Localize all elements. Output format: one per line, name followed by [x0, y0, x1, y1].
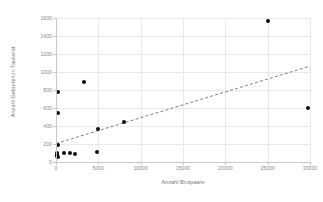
data-point [95, 150, 99, 154]
x-tick-mark [56, 162, 57, 165]
x-tick-mark [225, 162, 226, 165]
y-tick-mark [53, 108, 56, 109]
y-tick-label: 1600 [0, 15, 52, 21]
y-tick-label: 400 [0, 123, 52, 129]
x-tick-mark [183, 162, 184, 165]
y-tick-mark [53, 144, 56, 145]
gridline-vertical [310, 18, 311, 162]
x-tick-mark [268, 162, 269, 165]
y-tick-mark [53, 72, 56, 73]
y-tick-mark [53, 126, 56, 127]
data-point [266, 19, 270, 23]
x-tick-label: 10000 [126, 165, 156, 171]
x-tick-mark [141, 162, 142, 165]
x-tick-label: 15000 [168, 165, 198, 171]
scatter-chart: 02004006008001000120014001600 0500010000… [0, 0, 323, 202]
y-tick-mark [53, 36, 56, 37]
x-tick-mark [310, 162, 311, 165]
y-tick-mark [53, 18, 56, 19]
x-axis-title: Anzahl Brutpaare [56, 179, 310, 185]
y-tick-label: 600 [0, 105, 52, 111]
x-tick-label: 5000 [83, 165, 113, 171]
x-tick-label: 25000 [253, 165, 283, 171]
y-tick-label: 1400 [0, 33, 52, 39]
y-tick-label: 1200 [0, 51, 52, 57]
y-tick-mark [53, 90, 56, 91]
y-tick-label: 1000 [0, 69, 52, 75]
y-tick-label: 800 [0, 87, 52, 93]
y-axis-line [56, 18, 57, 162]
data-point [82, 80, 86, 84]
x-tick-label: 20000 [210, 165, 240, 171]
x-tick-label: 30000 [295, 165, 323, 171]
y-tick-label: 200 [0, 141, 52, 147]
y-axis-title: Anzahl Geburten in Tausend [10, 22, 16, 142]
x-tick-label: 0 [41, 165, 71, 171]
y-tick-mark [53, 54, 56, 55]
plot-area [56, 18, 310, 162]
x-tick-mark [98, 162, 99, 165]
trendline [56, 18, 310, 162]
